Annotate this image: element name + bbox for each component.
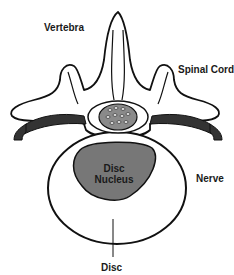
disc-nucleus-label-line2: Nucleus <box>90 174 138 185</box>
disc-nucleus-label: Disc Nucleus <box>90 163 138 185</box>
spine-cross-section-diagram <box>0 0 234 275</box>
vertebra-label: Vertebra <box>44 22 84 33</box>
nerve-label: Nerve <box>196 173 224 184</box>
disc-nucleus-label-line1: Disc <box>90 163 138 174</box>
disc-label: Disc <box>101 262 122 273</box>
spinal-cord-label: Spinal Cord <box>178 64 234 75</box>
